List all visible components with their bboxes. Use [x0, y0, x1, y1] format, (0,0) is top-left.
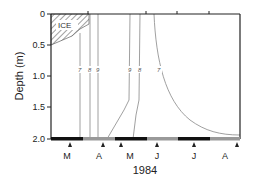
x-axis-year: 1984: [133, 164, 157, 176]
x-month-5: J: [192, 151, 197, 161]
y-tick-0: 0: [40, 9, 45, 19]
y-tick-2-0: 2.0: [32, 134, 45, 144]
ice-label: ICE: [58, 21, 71, 30]
x-month-2: A: [96, 151, 102, 161]
contour-7-late: [154, 14, 240, 135]
month-bar: [51, 137, 240, 141]
x-month-1: M: [63, 151, 71, 161]
x-month-3: M: [126, 151, 134, 161]
y-tick-1-5: 1.5: [32, 102, 45, 112]
y-tick-1-0: 1.0: [32, 71, 45, 81]
x-month-6: A: [222, 151, 228, 161]
x-month-4: J: [155, 151, 160, 161]
contour-8-late: [133, 14, 140, 139]
y-axis-label: Depth (m): [13, 52, 25, 101]
contour-9-late: [107, 14, 130, 139]
y-tick-0-5: 0.5: [32, 40, 45, 50]
chart: ICE 7 8 9 9 8 7: [0, 0, 254, 179]
